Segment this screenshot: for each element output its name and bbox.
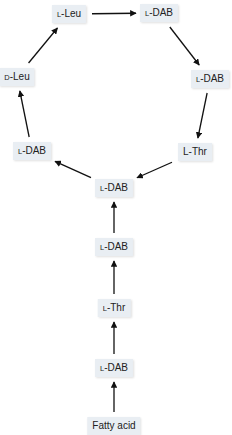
node-label: -Leu [10, 71, 30, 82]
node-leu: D-Leu [0, 68, 35, 86]
arrow-n4-to-n5 [137, 162, 172, 178]
node-thr: L-Thr [178, 143, 212, 161]
node-label: -DAB [104, 182, 128, 193]
node-dab: L-DAB [140, 4, 178, 22]
node-thr: L-Thr [98, 299, 131, 317]
node-dab: L-DAB [95, 238, 133, 256]
arrow-n2-to-n3 [170, 27, 199, 65]
node-label: -Thr [107, 302, 125, 313]
node-label: -DAB [149, 7, 173, 18]
node-label: Fatty acid [92, 420, 135, 431]
node-label: -DAB [22, 145, 46, 156]
node-dab: L-DAB [95, 179, 133, 197]
node-label: -DAB [104, 362, 128, 373]
arrow-n5-to-n6 [55, 161, 91, 177]
node-label: -DAB [104, 241, 128, 252]
node-label: -DAB [200, 73, 224, 84]
node-dab: L-DAB [191, 70, 229, 88]
node-label: -Thr [189, 146, 207, 157]
arrow-n6-to-n7 [20, 91, 29, 137]
arrow-n3-to-n4 [198, 93, 207, 138]
node-leu: L-Leu [52, 5, 86, 23]
node-dab: L-DAB [95, 359, 133, 377]
node-fattyacid: Fatty acid [87, 417, 140, 435]
arrow-n7-to-n1 [29, 28, 58, 63]
node-label: -Leu [61, 8, 81, 19]
node-dab: L-DAB [13, 142, 51, 160]
